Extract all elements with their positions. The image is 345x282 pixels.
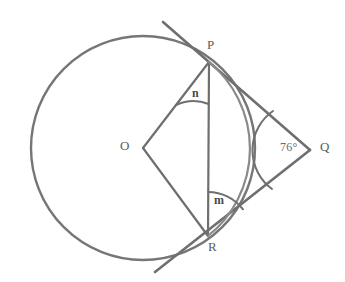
angle-label-n: n — [192, 87, 199, 99]
tangent-line-through-p — [163, 22, 310, 150]
angle-arc-n — [176, 101, 209, 105]
chord-pr — [208, 62, 209, 236]
tangent-line-through-r — [155, 150, 310, 272]
point-label-p: P — [207, 38, 214, 51]
radius-or — [143, 148, 208, 236]
angle-label-m: m — [214, 194, 224, 206]
point-label-o: O — [120, 139, 129, 152]
point-label-q: Q — [320, 140, 329, 153]
geometry-figure: P Q R O n m 76° — [0, 0, 345, 282]
point-label-r: R — [208, 240, 217, 253]
angle-label-q: 76° — [280, 141, 297, 153]
